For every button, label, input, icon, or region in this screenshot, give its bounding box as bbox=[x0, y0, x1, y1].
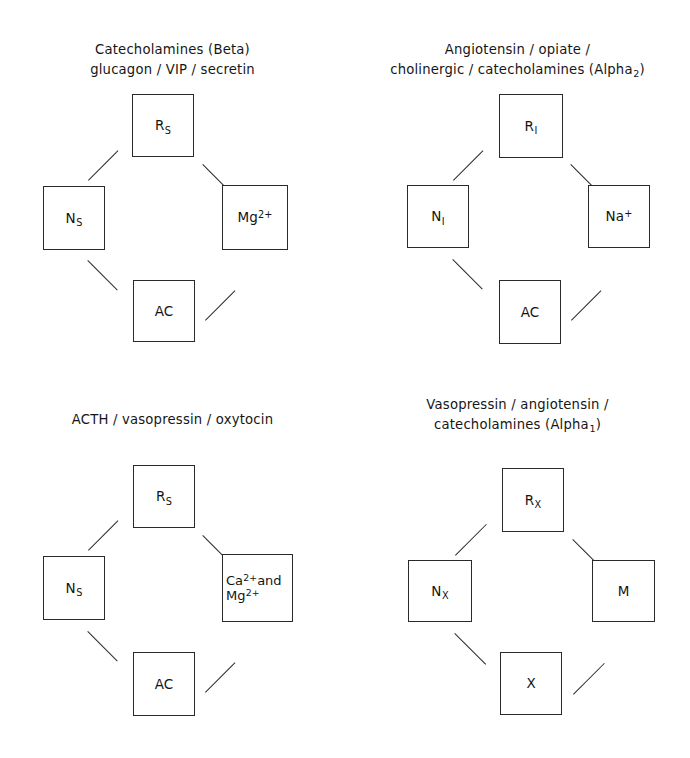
connector-left-top bbox=[88, 520, 118, 550]
node-right: Mg2+ bbox=[222, 185, 288, 250]
connector-bottom-right bbox=[205, 290, 235, 320]
connector-left-bottom bbox=[454, 633, 486, 665]
node-label: X bbox=[526, 676, 535, 690]
node-label: AC bbox=[155, 304, 173, 318]
connector-left-top bbox=[455, 524, 487, 556]
panel-top-right: Angiotensin / opiate /cholinergic / cate… bbox=[345, 0, 690, 379]
node-label: AC bbox=[155, 677, 173, 691]
connector-left-bottom bbox=[452, 259, 482, 289]
node-top: RS bbox=[132, 94, 194, 157]
panel-top-left: Catecholamines (Beta)glucagon / VIP / se… bbox=[0, 0, 345, 379]
node-label: Mg2+ bbox=[238, 210, 273, 224]
connector-left-bottom bbox=[87, 260, 117, 290]
node-right: M bbox=[592, 560, 655, 622]
node-bottom: X bbox=[500, 652, 562, 715]
connector-left-top bbox=[453, 150, 483, 180]
node-bottom: AC bbox=[499, 280, 561, 344]
connector-left-bottom bbox=[87, 631, 117, 661]
node-top: RX bbox=[502, 468, 564, 532]
node-left: NS bbox=[43, 556, 105, 620]
panel-bottom-right: Vasopressin / angiotensin /catecholamine… bbox=[345, 374, 690, 753]
node-label: M bbox=[618, 584, 630, 598]
node-label: NS bbox=[66, 211, 83, 225]
connector-bottom-right bbox=[573, 663, 605, 695]
node-label: NI bbox=[431, 209, 444, 223]
node-label: RS bbox=[156, 489, 172, 503]
connector-bottom-right bbox=[205, 662, 235, 692]
node-right: Ca2+andMg2+ bbox=[222, 554, 293, 622]
node-label: NX bbox=[431, 584, 448, 598]
panel-bottom-left: ACTH / vasopressin / oxytocin RS NS Ca2+… bbox=[0, 374, 345, 753]
node-label: AC bbox=[521, 305, 539, 319]
connector-bottom-right bbox=[571, 290, 601, 320]
node-top: RI bbox=[499, 94, 563, 158]
node-left: NS bbox=[43, 186, 105, 250]
node-bottom: AC bbox=[133, 652, 195, 716]
node-label: RX bbox=[525, 493, 542, 507]
node-label: Ca2+andMg2+ bbox=[226, 573, 282, 603]
node-label: Na+ bbox=[606, 209, 633, 223]
node-right: Na+ bbox=[588, 185, 650, 248]
cycle-diagram: RS NS Mg2+ AC bbox=[0, 0, 345, 379]
node-top: RS bbox=[133, 465, 195, 528]
node-left: NI bbox=[407, 185, 469, 248]
node-bottom: AC bbox=[133, 280, 195, 342]
cycle-diagram: RS NS Ca2+andMg2+ AC bbox=[0, 374, 345, 753]
node-left: NX bbox=[408, 560, 472, 622]
node-label: RI bbox=[525, 119, 538, 133]
cycle-diagram: RX NX M X bbox=[345, 374, 690, 753]
node-label: NS bbox=[66, 581, 83, 595]
cycle-diagram: RI NI Na+ AC bbox=[345, 0, 690, 379]
node-label: RS bbox=[155, 118, 171, 132]
connector-left-top bbox=[88, 150, 118, 180]
